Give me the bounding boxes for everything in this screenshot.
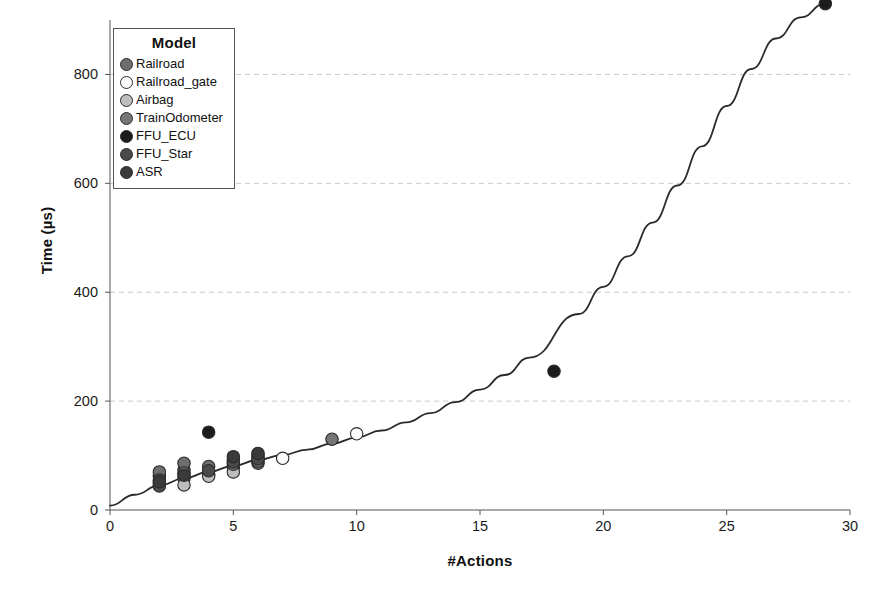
x-axis-ticks: 051015202530 [0, 518, 887, 542]
x-tick-label: 30 [830, 518, 870, 534]
y-tick-label: 800 [42, 66, 98, 82]
legend-item-label: FFU_Star [136, 147, 192, 161]
y-tick-label: 0 [42, 502, 98, 518]
legend-item-label: TrainOdometer [136, 111, 223, 125]
legend-item: FFU_Star [120, 145, 228, 163]
x-tick-label: 5 [213, 518, 253, 534]
x-tick-label: 10 [337, 518, 377, 534]
x-axis-title: #Actions [110, 552, 850, 569]
legend-marker-icon [120, 76, 133, 89]
legend-item: Airbag [120, 91, 228, 109]
legend-title: Model [120, 34, 228, 51]
data-point [178, 469, 190, 481]
x-tick-label: 20 [583, 518, 623, 534]
x-tick-label: 0 [90, 518, 130, 534]
legend-marker-icon [120, 112, 133, 125]
data-point [202, 465, 214, 477]
x-tick-label: 25 [707, 518, 747, 534]
legend-item: TrainOdometer [120, 109, 228, 127]
legend: Model RailroadRailroad_gateAirbagTrainOd… [113, 28, 235, 189]
data-point [350, 428, 362, 440]
legend-item: ASR [120, 163, 228, 181]
data-point [819, 0, 831, 10]
legend-item: Railroad [120, 55, 228, 73]
data-point [548, 365, 560, 377]
data-point [252, 447, 264, 459]
data-points [153, 0, 831, 492]
legend-item-label: Railroad_gate [136, 75, 217, 89]
legend-marker-icon [120, 94, 133, 107]
legend-item-label: FFU_ECU [136, 129, 196, 143]
legend-item: Railroad_gate [120, 73, 228, 91]
legend-item-label: Airbag [136, 93, 174, 107]
legend-item-label: Railroad [136, 57, 184, 71]
legend-marker-icon [120, 148, 133, 161]
y-axis-title: Time (µs) [38, 151, 55, 331]
legend-marker-icon [120, 58, 133, 71]
y-tick-label: 200 [42, 393, 98, 409]
x-tick-label: 15 [460, 518, 500, 534]
legend-items: RailroadRailroad_gateAirbagTrainOdometer… [120, 55, 228, 181]
legend-item: FFU_ECU [120, 127, 228, 145]
scatter-plot-figure: 0200400600800 051015202530 Time (µs) #Ac… [0, 0, 887, 591]
data-point [227, 450, 239, 462]
data-point [276, 452, 288, 464]
data-point [153, 475, 165, 487]
legend-marker-icon [120, 130, 133, 143]
data-point [202, 426, 214, 438]
legend-marker-icon [120, 166, 133, 179]
legend-item-label: ASR [136, 165, 163, 179]
data-point [326, 433, 338, 445]
